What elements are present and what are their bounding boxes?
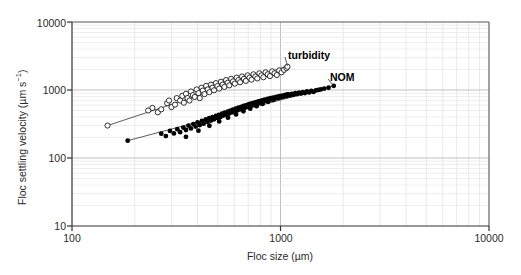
axis-ticks	[67, 22, 489, 231]
data-point	[322, 86, 327, 91]
data-point	[266, 99, 271, 104]
y-tick-label-10: 10	[22, 220, 66, 232]
y-tick-label-10000: 10000	[22, 17, 66, 29]
data-point	[105, 123, 110, 128]
data-point	[171, 131, 176, 136]
data-point	[248, 106, 253, 111]
data-point	[285, 92, 290, 97]
data-point	[125, 138, 130, 143]
data-point	[241, 109, 246, 114]
y-tick-label-1000: 1000	[22, 84, 66, 96]
series-label-nom: NOM	[330, 71, 355, 83]
y-axis-title-text: Floc settling velocity (µm s	[16, 82, 28, 205]
data-point	[163, 134, 168, 139]
figure-floc-settling-velocity: 10000 1000 100 10 100 1000 10000 Floc se…	[0, 0, 521, 275]
data-point	[271, 97, 276, 102]
y-axis-title-tail: )	[16, 70, 28, 74]
data-point	[234, 112, 239, 117]
data-point	[326, 85, 331, 90]
data-point	[189, 126, 194, 131]
data-point	[217, 119, 222, 124]
data-point	[181, 100, 186, 105]
data-point	[254, 104, 259, 109]
data-point	[207, 123, 212, 128]
data-point	[172, 102, 177, 107]
data-point	[187, 98, 192, 103]
data-point	[281, 94, 286, 99]
y-tick-label-100: 100	[22, 152, 66, 164]
data-point	[202, 92, 207, 97]
x-tick-label-10000: 10000	[459, 232, 519, 244]
data-point	[150, 105, 155, 110]
data-point	[159, 107, 164, 112]
x-axis-title: Floc size (µm)	[180, 250, 380, 262]
data-point	[276, 96, 281, 101]
data-point	[166, 98, 171, 103]
data-point	[197, 96, 202, 101]
data-point	[184, 134, 189, 139]
grid-lines	[72, 22, 489, 226]
y-axis-title: Floc settling velocity (µm s−1)	[14, 70, 28, 205]
data-point	[196, 128, 201, 133]
data-point	[260, 101, 265, 106]
y-axis-title-exponent: −1	[14, 73, 23, 82]
annotation-leaders	[285, 57, 334, 86]
data-point	[178, 130, 183, 135]
data-point	[226, 115, 231, 120]
x-tick-label-1000: 1000	[251, 232, 311, 244]
data-point	[159, 131, 164, 136]
data-point	[184, 128, 189, 133]
series-label-turbidity: turbidity	[288, 49, 330, 61]
x-tick-label-100: 100	[42, 232, 102, 244]
